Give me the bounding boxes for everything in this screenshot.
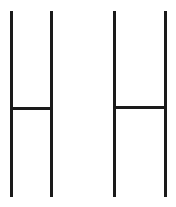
glyph-left-left-stem bbox=[10, 11, 13, 197]
glyph-right-crossbar bbox=[113, 106, 167, 109]
glyph-left-crossbar bbox=[10, 107, 53, 110]
background-rect bbox=[0, 0, 176, 207]
glyph-right-left-stem bbox=[113, 11, 116, 197]
glyph-drawing-surface bbox=[0, 0, 176, 207]
glyph-right-right-stem bbox=[164, 11, 167, 197]
image-canvas: Two tall narrow letter-H glyphs drawn wi… bbox=[0, 0, 176, 207]
glyph-left-right-stem bbox=[50, 11, 53, 197]
